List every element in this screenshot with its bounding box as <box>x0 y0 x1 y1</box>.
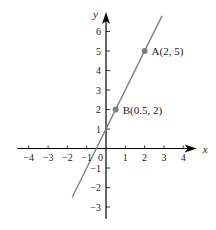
y-axis-label: y <box>92 8 98 20</box>
y-tick-label: −2 <box>90 182 101 193</box>
point-b <box>113 107 119 113</box>
y-tick-label: 2 <box>96 104 101 115</box>
y-tick-label: 1 <box>96 124 101 135</box>
y-tick-label: 6 <box>96 26 101 37</box>
point-label-a: A(2, 5) <box>152 45 184 58</box>
y-tick-label: 3 <box>96 85 101 96</box>
y-tick-label: 5 <box>96 46 101 57</box>
x-tick-label: −1 <box>81 152 92 163</box>
x-tick-label: −4 <box>23 152 34 163</box>
y-tick-label: −1 <box>90 163 101 174</box>
x-tick-label: 4 <box>181 152 186 163</box>
x-axis-label: x <box>202 143 208 155</box>
origin-label: 0 <box>98 152 103 163</box>
point-label-b: B(0.5, 2) <box>123 104 163 117</box>
y-tick-label: 4 <box>96 65 101 76</box>
x-tick-label: −3 <box>43 152 54 163</box>
point-a <box>142 48 148 54</box>
coordinate-plane: −4−3−2−11234−3−2−11234560xyA(2, 5)B(0.5,… <box>0 0 216 230</box>
x-tick-label: 3 <box>161 152 166 163</box>
x-tick-label: 1 <box>123 152 128 163</box>
x-tick-label: 2 <box>142 152 147 163</box>
y-tick-label: −3 <box>90 202 101 213</box>
x-tick-label: −2 <box>62 152 73 163</box>
